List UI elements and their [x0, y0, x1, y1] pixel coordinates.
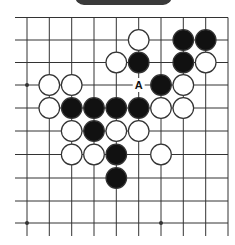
star-point — [25, 221, 29, 225]
black-stone[interactable] — [106, 168, 127, 189]
white-stone[interactable] — [106, 121, 127, 142]
star-point — [25, 83, 29, 87]
white-stone[interactable] — [61, 75, 82, 96]
black-stone[interactable] — [151, 75, 172, 96]
black-stone[interactable] — [106, 144, 127, 165]
black-stone[interactable] — [84, 121, 105, 142]
white-stone[interactable] — [173, 98, 194, 119]
white-stone[interactable] — [151, 144, 172, 165]
black-stone[interactable] — [106, 98, 127, 119]
go-board[interactable]: A — [0, 0, 235, 245]
white-stone[interactable] — [106, 52, 127, 73]
black-stone[interactable] — [195, 30, 216, 51]
black-stone[interactable] — [173, 52, 194, 73]
point-marker-label: A — [135, 79, 143, 91]
go-board-grid: A — [0, 0, 235, 245]
star-point — [159, 221, 163, 225]
black-stone[interactable] — [128, 98, 149, 119]
black-stone[interactable] — [173, 30, 194, 51]
white-stone[interactable] — [84, 144, 105, 165]
white-stone[interactable] — [195, 52, 216, 73]
white-stone[interactable] — [61, 144, 82, 165]
white-stone[interactable] — [128, 121, 149, 142]
white-stone[interactable] — [39, 75, 60, 96]
white-stone[interactable] — [61, 121, 82, 142]
black-stone[interactable] — [84, 98, 105, 119]
black-stone[interactable] — [128, 52, 149, 73]
white-stone[interactable] — [128, 30, 149, 51]
white-stone[interactable] — [173, 75, 194, 96]
black-stone[interactable] — [61, 98, 82, 119]
white-stone[interactable] — [151, 98, 172, 119]
white-stone[interactable] — [39, 98, 60, 119]
